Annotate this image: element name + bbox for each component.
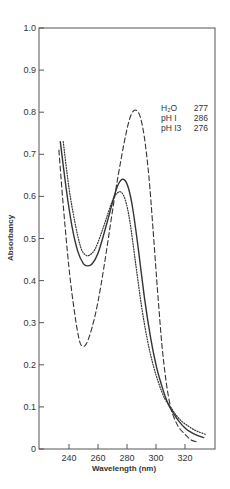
x-tick-label: 320 xyxy=(177,453,192,463)
x-tick-label: 280 xyxy=(119,453,134,463)
y-tick-label: 0.2 xyxy=(23,360,36,370)
y-tick-label: 0.1 xyxy=(23,402,36,412)
legend-lambda-max: 286 xyxy=(194,113,208,123)
spectra-curves xyxy=(59,110,205,442)
y-axis-ticks: 00.10.20.30.40.50.60.70.80.91.0 xyxy=(23,23,44,454)
curve-h2o xyxy=(60,142,204,438)
x-tick-label: 300 xyxy=(148,453,163,463)
y-axis-label: Absorbancy xyxy=(6,214,15,261)
y-tick-label: 0.9 xyxy=(23,65,36,75)
legend-label: H₂O xyxy=(161,103,177,113)
y-tick-label: 0.5 xyxy=(23,234,36,244)
legend-lambda-max: 276 xyxy=(194,123,208,133)
x-tick-label: 240 xyxy=(61,453,76,463)
legend-lambda-max: 277 xyxy=(194,103,208,113)
plot-border xyxy=(39,28,215,449)
legend-annotation: H₂O277pH I286pH I3276 xyxy=(161,103,208,133)
plot-frame xyxy=(39,28,215,449)
y-tick-label: 0.4 xyxy=(23,276,36,286)
x-tick-label: 260 xyxy=(90,453,105,463)
y-tick-label: 1.0 xyxy=(23,23,36,33)
y-tick-label: 0 xyxy=(31,444,36,454)
x-axis-label: Wavelength (nm) xyxy=(92,464,156,473)
y-tick-label: 0.6 xyxy=(23,191,36,201)
legend-label: pH I xyxy=(161,113,177,123)
y-tick-label: 0.7 xyxy=(23,149,36,159)
uv-absorbance-chart: 00.10.20.30.40.50.60.70.80.91.0 24026028… xyxy=(0,0,230,489)
curve-ph-13 xyxy=(63,142,205,435)
y-tick-label: 0.8 xyxy=(23,107,36,117)
y-tick-label: 0.3 xyxy=(23,318,36,328)
curve-ph-1 xyxy=(59,110,197,442)
legend-label: pH I3 xyxy=(161,123,182,133)
x-axis-ticks: 240260280300320 xyxy=(61,444,192,463)
